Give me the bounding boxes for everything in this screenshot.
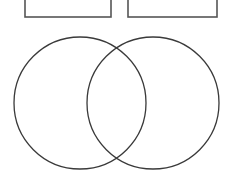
label-box-left[interactable] [25,0,111,17]
label-box-right[interactable] [128,0,217,17]
worksheet-canvas [0,0,232,185]
venn-diagram-worksheet [0,0,232,185]
